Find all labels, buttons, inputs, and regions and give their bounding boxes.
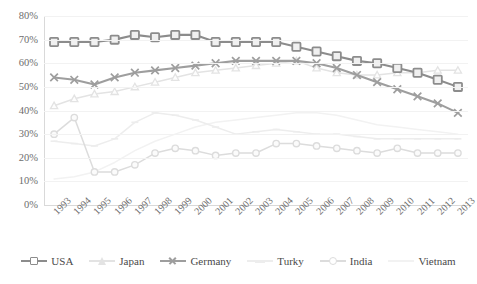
legend-item-usa[interactable]: USA xyxy=(21,255,73,267)
y-tick-label: 50% xyxy=(2,82,38,92)
grid-line xyxy=(44,16,468,17)
grid-line xyxy=(44,181,468,182)
legend-swatch-icon xyxy=(247,257,273,266)
legend-swatch-icon xyxy=(388,257,414,266)
line-chart: 0%10%20%30%40%50%60%70%80% 1993199419951… xyxy=(0,0,477,284)
legend-item-vietnam[interactable]: Vietnam xyxy=(388,255,455,267)
legend-label: Turky xyxy=(277,255,304,267)
legend-item-india[interactable]: India xyxy=(320,255,373,267)
grid-line xyxy=(44,158,468,159)
legend-label: Japan xyxy=(119,255,144,267)
legend-label: India xyxy=(350,255,373,267)
y-tick-label: 60% xyxy=(2,58,38,68)
grid-line xyxy=(44,111,468,112)
legend-label: Vietnam xyxy=(418,255,455,267)
legend-label: Germany xyxy=(190,255,231,267)
legend-swatch-icon xyxy=(21,257,47,266)
legend-swatch-icon xyxy=(160,257,186,266)
legend-label: USA xyxy=(51,255,73,267)
legend-item-germany[interactable]: Germany xyxy=(160,255,231,267)
legend-item-turky[interactable]: Turky xyxy=(247,255,304,267)
y-tick-label: 70% xyxy=(2,35,38,45)
legend-swatch-icon xyxy=(320,257,346,266)
y-tick-label: 20% xyxy=(2,153,38,163)
series-india xyxy=(51,114,461,175)
grid-line xyxy=(44,134,468,135)
legend-swatch-icon xyxy=(89,257,115,266)
y-tick-label: 0% xyxy=(2,200,38,210)
y-tick-label: 30% xyxy=(2,129,38,139)
grid-line xyxy=(44,87,468,88)
grid-line xyxy=(44,40,468,41)
y-tick-label: 40% xyxy=(2,106,38,116)
y-tick-label: 80% xyxy=(2,11,38,21)
y-tick-label: 10% xyxy=(2,176,38,186)
legend-item-japan[interactable]: Japan xyxy=(89,255,144,267)
grid-line xyxy=(44,63,468,64)
chart-legend: USAJapanGermanyTurkyIndiaVietnam xyxy=(0,255,477,267)
x-axis-tick-labels: 1993199419951996199719981999200020012002… xyxy=(44,207,468,253)
plot-area xyxy=(44,16,468,205)
